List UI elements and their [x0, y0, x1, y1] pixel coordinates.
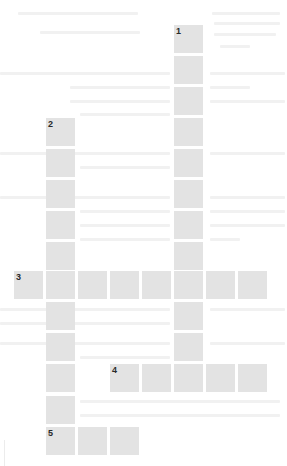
- cell-input[interactable]: [78, 271, 107, 299]
- crossword-cell[interactable]: 5: [46, 427, 75, 455]
- crossword-cell[interactable]: [206, 364, 235, 392]
- cell-input[interactable]: [142, 271, 171, 299]
- crossword-cell[interactable]: [110, 271, 139, 299]
- cell-input[interactable]: [46, 242, 75, 270]
- cell-input[interactable]: [110, 364, 139, 392]
- cell-input[interactable]: [46, 180, 75, 208]
- crossword-cell[interactable]: [174, 333, 203, 361]
- cell-input[interactable]: [174, 149, 203, 177]
- cell-input[interactable]: [46, 427, 75, 455]
- cell-input[interactable]: [46, 211, 75, 239]
- cell-input[interactable]: [174, 25, 203, 53]
- cell-input[interactable]: [174, 211, 203, 239]
- crossword-cell[interactable]: [78, 271, 107, 299]
- cell-input[interactable]: [174, 302, 203, 330]
- cell-input[interactable]: [110, 427, 139, 455]
- cell-input[interactable]: [174, 56, 203, 84]
- cell-input[interactable]: [142, 364, 171, 392]
- crossword-cell[interactable]: [174, 211, 203, 239]
- cell-input[interactable]: [206, 364, 235, 392]
- cell-input[interactable]: [238, 364, 267, 392]
- crossword-cell[interactable]: [174, 87, 203, 115]
- crossword-cell[interactable]: 3: [14, 271, 43, 299]
- crossword-cell[interactable]: [174, 271, 203, 299]
- crossword-cell[interactable]: [46, 396, 75, 424]
- crossword-cell[interactable]: [46, 271, 75, 299]
- crossword-cell[interactable]: [174, 364, 203, 392]
- crossword-cell[interactable]: [142, 364, 171, 392]
- crossword-cell[interactable]: [78, 427, 107, 455]
- cell-input[interactable]: [46, 364, 75, 392]
- crossword-cell[interactable]: [46, 149, 75, 177]
- crossword-cell[interactable]: [174, 242, 203, 270]
- crossword-puzzle: 1 2 3: [0, 0, 287, 466]
- crossword-cell[interactable]: 1: [174, 25, 203, 53]
- cell-input[interactable]: [174, 87, 203, 115]
- cell-input[interactable]: [46, 302, 75, 330]
- cell-input[interactable]: [206, 271, 235, 299]
- crossword-cell[interactable]: [238, 271, 267, 299]
- crossword-cell[interactable]: [110, 427, 139, 455]
- crossword-cell[interactable]: [46, 364, 75, 392]
- cell-input[interactable]: [174, 333, 203, 361]
- cell-input[interactable]: [46, 396, 75, 424]
- crossword-cell[interactable]: [174, 180, 203, 208]
- cell-input[interactable]: [46, 118, 75, 146]
- cell-input[interactable]: [174, 364, 203, 392]
- cell-input[interactable]: [46, 149, 75, 177]
- cell-input[interactable]: [110, 271, 139, 299]
- cell-input[interactable]: [174, 242, 203, 270]
- crossword-cell[interactable]: [206, 271, 235, 299]
- crossword-cell[interactable]: 2: [46, 118, 75, 146]
- crossword-cell[interactable]: [46, 242, 75, 270]
- crossword-cell[interactable]: [174, 56, 203, 84]
- crossword-cell[interactable]: [174, 302, 203, 330]
- cell-input[interactable]: [238, 271, 267, 299]
- cell-input[interactable]: [14, 271, 43, 299]
- crossword-cell[interactable]: [174, 118, 203, 146]
- cell-input[interactable]: [174, 118, 203, 146]
- cell-input[interactable]: [46, 333, 75, 361]
- crossword-cell[interactable]: [238, 364, 267, 392]
- crossword-cell[interactable]: [46, 211, 75, 239]
- cell-input[interactable]: [46, 271, 75, 299]
- cell-input[interactable]: [174, 271, 203, 299]
- cell-input[interactable]: [78, 427, 107, 455]
- crossword-cell[interactable]: 4: [110, 364, 139, 392]
- crossword-cell[interactable]: [174, 149, 203, 177]
- crossword-cell[interactable]: [46, 302, 75, 330]
- crossword-cell[interactable]: [46, 333, 75, 361]
- crossword-cell[interactable]: [46, 180, 75, 208]
- cell-input[interactable]: [174, 180, 203, 208]
- crossword-cell[interactable]: [142, 271, 171, 299]
